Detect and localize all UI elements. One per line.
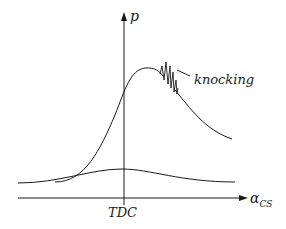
knocking-annotation: knocking <box>194 72 254 87</box>
x-axis-arrow-icon <box>239 195 248 201</box>
x-axis-label: αCS <box>250 190 273 209</box>
y-axis-arrow-icon <box>121 12 127 21</box>
knocking-oscillation <box>160 62 178 94</box>
x-axis-label-subscript: CS <box>259 199 272 209</box>
y-axis-label: p <box>130 8 139 24</box>
pressure-diagram <box>0 0 286 229</box>
motored-pressure-curve <box>18 169 235 183</box>
tdc-tick-label: TDC <box>108 205 137 220</box>
knocking-leader-line <box>177 70 190 76</box>
